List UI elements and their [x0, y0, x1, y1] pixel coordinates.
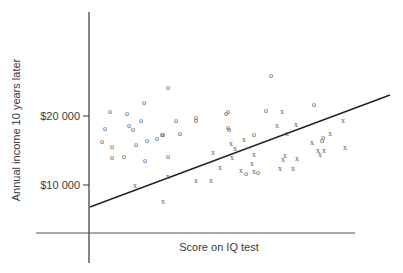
point-x-marker: x [310, 138, 314, 147]
point-x-marker: x [328, 129, 332, 138]
point-o-marker: o [110, 142, 114, 151]
scatter-chart: $20 000 $10 000 Annual income 10 years l… [0, 0, 403, 273]
y-tick-label-20000: $20 000 [40, 110, 80, 122]
point-x-marker: x [209, 176, 213, 185]
point-o-marker: o [142, 98, 146, 107]
point-o-marker: o [178, 129, 182, 138]
point-x-marker: x [281, 155, 285, 164]
point-x-marker: x [285, 129, 289, 138]
point-o-marker: o [194, 113, 198, 122]
point-x-marker: x [343, 143, 347, 152]
point-x-marker: x [322, 146, 326, 155]
point-o-marker: o [145, 136, 149, 145]
point-x-marker: x [242, 135, 246, 144]
point-o-marker: o [100, 137, 104, 146]
point-o-marker: o [226, 123, 230, 132]
point-o-marker: o [269, 71, 273, 80]
x-axis-label: Score on IQ test [179, 241, 258, 253]
y-tick-label-10000: $10 000 [40, 179, 80, 191]
point-x-marker: x [291, 164, 295, 173]
point-o-marker: o [321, 133, 325, 142]
point-o-marker: o [224, 109, 228, 118]
point-o-marker: o [103, 124, 107, 133]
point-x-marker: x [295, 154, 299, 163]
point-o-marker: o [174, 116, 178, 125]
point-o-marker: o [256, 168, 260, 177]
point-x-marker: x [161, 197, 165, 206]
point-x-marker: x [166, 172, 170, 181]
point-o-marker: o [252, 130, 256, 139]
point-o-marker: o [312, 100, 316, 109]
point-o-marker: o [166, 83, 170, 92]
point-x-marker: x [218, 163, 222, 172]
point-o-marker: o [166, 152, 170, 161]
point-o-marker: o [160, 130, 164, 139]
point-o-marker: o [143, 156, 147, 165]
point-x-marker: x [278, 164, 282, 173]
data-points: oooooooooooooooooooooooooooooooooooxxxxx… [100, 71, 347, 206]
point-o-marker: o [134, 140, 138, 149]
point-o-marker: o [122, 152, 126, 161]
point-x-marker: x [194, 176, 198, 185]
point-x-marker: x [252, 167, 256, 176]
point-x-marker: x [294, 120, 298, 129]
point-x-marker: x [133, 181, 137, 190]
point-o-marker: o [125, 109, 129, 118]
point-o-marker: o [155, 134, 159, 143]
point-x-marker: x [252, 150, 256, 159]
point-x-marker: x [239, 166, 243, 175]
point-o-marker: o [108, 107, 112, 116]
point-o-marker: o [131, 125, 135, 134]
point-x-marker: x [230, 153, 234, 162]
point-x-marker: x [280, 107, 284, 116]
point-x-marker: x [275, 121, 279, 130]
point-x-marker: x [233, 144, 237, 153]
point-x-marker: x [341, 116, 345, 125]
point-o-marker: o [110, 153, 114, 162]
y-axis-label: Annual income 10 years later [10, 58, 22, 201]
point-o-marker: o [244, 169, 248, 178]
point-x-marker: x [211, 148, 215, 157]
point-o-marker: o [139, 116, 143, 125]
point-o-marker: o [264, 106, 268, 115]
